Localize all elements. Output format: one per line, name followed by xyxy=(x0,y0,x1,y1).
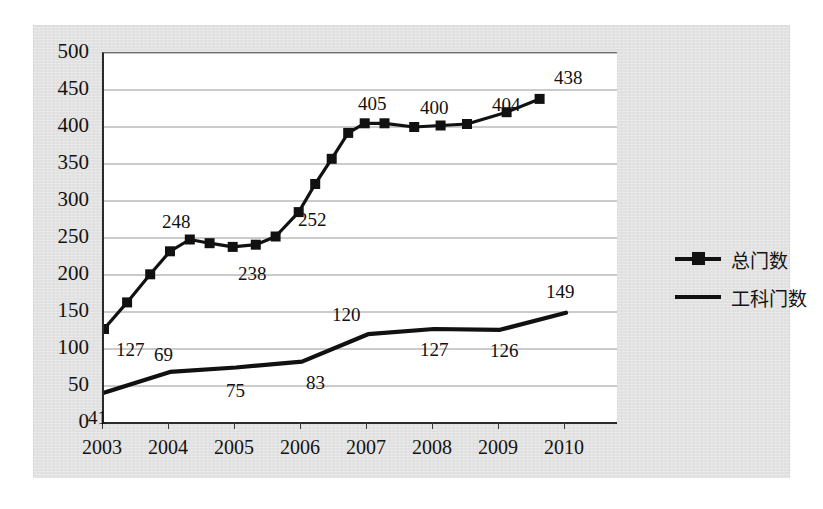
y-axis-tick-label: 100 xyxy=(41,337,89,358)
x-axis-tick-label: 2004 xyxy=(135,437,201,457)
total-series-marker xyxy=(380,118,390,128)
x-axis-tick-label: 2009 xyxy=(465,437,531,457)
total-series-marker xyxy=(228,242,238,252)
engineering-data-label: 75 xyxy=(226,381,245,400)
total-series-marker xyxy=(145,269,155,279)
x-axis-tick-label: 2006 xyxy=(267,437,333,457)
total-series-marker xyxy=(310,179,320,189)
legend-item[interactable]: 总门数 xyxy=(673,240,823,278)
total-data-label: 252 xyxy=(298,210,327,229)
engineering-data-label: 69 xyxy=(154,345,173,364)
total-series-marker xyxy=(205,238,215,248)
total-series-marker xyxy=(251,240,261,250)
y-axis-tick-label: 500 xyxy=(41,41,89,62)
total-series-marker xyxy=(122,297,132,307)
total-data-label: 238 xyxy=(238,264,267,283)
total-data-label: 404 xyxy=(492,95,521,114)
x-axis-tick-label: 2010 xyxy=(531,437,597,457)
chart-figure: 500450400350300250200150100500 200320042… xyxy=(0,0,823,509)
y-axis-tick-label: 200 xyxy=(41,263,89,284)
x-axis-tick xyxy=(432,422,434,429)
total-series-marker xyxy=(185,235,195,245)
total-series-marker xyxy=(436,121,446,131)
legend-item-label: 总门数 xyxy=(731,246,788,273)
x-axis-tick xyxy=(366,422,368,429)
engineering-data-label: 126 xyxy=(490,341,519,360)
total-data-label: 127 xyxy=(116,340,145,359)
x-axis-tick xyxy=(168,422,170,429)
total-series-marker xyxy=(360,118,370,128)
y-axis-tick-label: 0 xyxy=(41,411,89,432)
y-axis-tick-label: 400 xyxy=(41,115,89,136)
total-series-marker xyxy=(104,324,109,334)
total-series-marker xyxy=(535,94,545,104)
total-series-marker xyxy=(462,119,472,129)
engineering-data-label: 83 xyxy=(306,373,325,392)
total-data-label: 248 xyxy=(162,212,191,231)
legend-marker-square-icon xyxy=(673,250,723,268)
total-series-marker xyxy=(409,122,419,132)
y-axis-tick-label: 250 xyxy=(41,226,89,247)
engineering-data-label: 149 xyxy=(546,282,575,301)
y-axis-tick-label: 150 xyxy=(41,300,89,321)
x-axis-tick xyxy=(564,422,566,429)
total-series-marker xyxy=(327,154,337,164)
y-axis-tick-label: 300 xyxy=(41,189,89,210)
total-series-marker xyxy=(165,246,175,256)
chart-plot-background: 500450400350300250200150100500 200320042… xyxy=(33,25,790,478)
y-axis-tick-label: 350 xyxy=(41,152,89,173)
y-axis-tick-label: 50 xyxy=(41,374,89,395)
x-axis-line xyxy=(102,422,617,424)
total-series-marker xyxy=(271,232,281,242)
x-axis-tick-label: 2003 xyxy=(69,437,135,457)
legend-item[interactable]: 工科门数 xyxy=(673,278,823,316)
engineering-data-label: 127 xyxy=(420,340,449,359)
x-axis-tick xyxy=(234,422,236,429)
legend-item-label: 工科门数 xyxy=(731,284,807,311)
total-data-label: 400 xyxy=(420,98,449,117)
engineering-data-label: 120 xyxy=(332,305,361,324)
total-series-marker xyxy=(343,128,353,138)
x-axis-tick xyxy=(300,422,302,429)
legend-marker-line-icon xyxy=(673,288,723,306)
x-axis-tick-label: 2007 xyxy=(333,437,399,457)
x-axis-tick-label: 2005 xyxy=(201,437,267,457)
x-axis-tick xyxy=(498,422,500,429)
y-axis-tick-label: 450 xyxy=(41,78,89,99)
total-data-label: 438 xyxy=(554,68,583,87)
chart-legend: 总门数工科门数 xyxy=(673,240,823,316)
engineering-data-label: 41 xyxy=(88,408,107,427)
total-data-label: 405 xyxy=(358,94,387,113)
x-axis-tick-label: 2008 xyxy=(399,437,465,457)
